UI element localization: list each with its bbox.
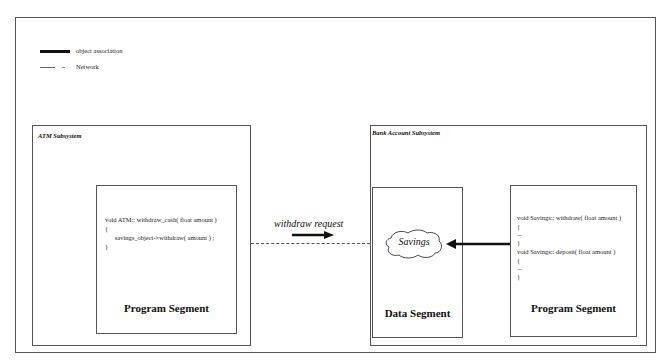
legend-label-object-association: object association xyxy=(76,47,122,54)
atm-code-line-3: savings_object->withdraw( amount ) ; xyxy=(105,233,214,242)
atm-subsystem-title: ATM Subsystem xyxy=(38,132,82,139)
legend-dashed-line xyxy=(40,67,70,68)
legend-label-network: Network xyxy=(76,63,99,70)
network-dashed-line xyxy=(251,243,370,244)
atm-program-segment-label: Program Segment xyxy=(96,302,237,314)
bank-code-line-1: void Savings:: withdraw( float amount ) xyxy=(517,213,621,222)
bank-program-segment-label: Program Segment xyxy=(510,302,637,314)
bank-subsystem-title: Bank Account Subsystem xyxy=(372,129,440,136)
bank-code-line-8: } xyxy=(517,272,520,281)
bank-code-line-5: void Savings:: deposit( float amount ) xyxy=(517,247,615,256)
withdraw-request-label: withdraw request xyxy=(274,218,343,229)
request-arrow-icon xyxy=(290,230,336,240)
object-association-arrow-icon xyxy=(444,238,512,250)
legend-solid-line xyxy=(40,50,70,53)
bank-code-line-3: ... xyxy=(517,229,522,238)
data-segment-label: Data Segment xyxy=(372,307,463,319)
bank-program-segment-box xyxy=(510,185,637,337)
atm-code-line-4: } xyxy=(105,242,108,251)
savings-object-label: Savings xyxy=(383,236,445,247)
atm-code-line-2: { xyxy=(105,224,108,233)
bank-code-line-4: } xyxy=(517,238,520,247)
bank-code-line-7: ... xyxy=(517,263,522,272)
atm-code-line-1: void ATM:: withdraw_cash( float amount ) xyxy=(105,215,217,224)
